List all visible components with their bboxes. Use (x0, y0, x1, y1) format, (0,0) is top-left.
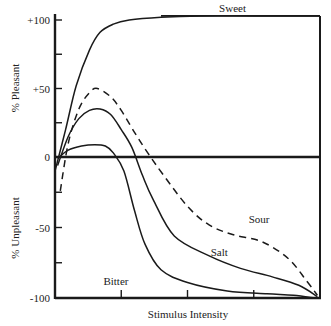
curve-label-bitter: Bitter (103, 275, 128, 287)
curve-salt (58, 109, 318, 297)
curve-label-sour: Sour (249, 213, 270, 225)
y-tick-label: 0 (45, 151, 51, 163)
y-tick-label: +50 (33, 83, 51, 95)
curve-label-sweet: Sweet (219, 2, 246, 14)
x-axis-label: Stimulus Intensity (148, 308, 229, 320)
curve-bitter (58, 145, 315, 298)
chart-svg: +100+500-50-100 SweetSourSaltBitter Stim… (0, 0, 331, 326)
y-tick-label: +100 (27, 14, 50, 26)
y-tick-label: -100 (30, 292, 51, 304)
axes: +100+500-50-100 (27, 14, 321, 304)
y-axis-label-unpleasant: % Unpleasant (9, 197, 21, 258)
curve-sour (60, 88, 317, 295)
y-tick-label: -50 (35, 222, 50, 234)
taste-hedonic-chart: +100+500-50-100 SweetSourSaltBitter Stim… (0, 0, 331, 326)
y-axis-label-pleasant: % Pleasant (9, 64, 21, 113)
curve-sweet (55, 16, 320, 171)
curve-label-salt: Salt (211, 246, 228, 258)
